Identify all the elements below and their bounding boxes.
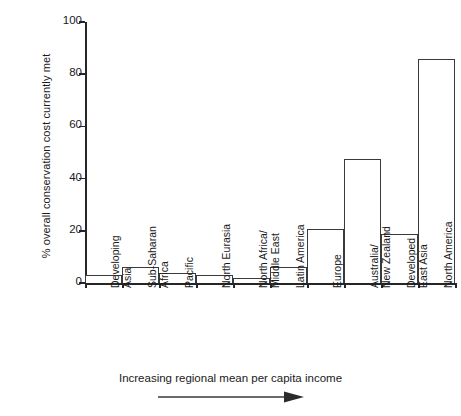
x-tick-label: North America	[443, 221, 455, 288]
x-tick-label: Pacific	[184, 257, 196, 288]
x-axis-caption: Increasing regional mean per capita inco…	[0, 372, 461, 384]
chart-figure: % overall conservation cost currently me…	[0, 0, 461, 416]
x-tick-mark	[455, 283, 457, 288]
x-tick-mark	[196, 283, 198, 288]
income-arrow	[0, 390, 461, 408]
x-tick-label: Sub-Saharan Africa	[147, 226, 170, 288]
right-arrow-icon	[156, 390, 306, 404]
x-tick-label: Developed East Asia	[406, 238, 429, 288]
x-tick-label: Australia/ New Zealand	[369, 226, 392, 288]
y-tick-label: 20	[69, 223, 82, 235]
y-tick-label: 0	[76, 275, 82, 287]
y-axis-line	[85, 22, 87, 283]
y-axis-title: % overall conservation cost currently me…	[40, 26, 52, 286]
x-tick-label: Europe	[332, 254, 344, 288]
x-tick-mark	[85, 283, 87, 288]
y-tick-label: 60	[69, 118, 82, 130]
x-tick-mark	[307, 283, 309, 288]
x-tick-mark	[233, 283, 235, 288]
x-tick-label: Developing Asia	[110, 235, 133, 288]
x-tick-label: North Africa/ Middle East	[258, 230, 281, 288]
y-tick-label: 100	[63, 14, 82, 26]
y-tick-label: 40	[69, 171, 82, 183]
y-tick-label: 80	[69, 66, 82, 78]
x-tick-label: Latin America	[295, 224, 307, 288]
x-tick-label: North Eurasia	[221, 224, 233, 288]
x-tick-mark	[344, 283, 346, 288]
